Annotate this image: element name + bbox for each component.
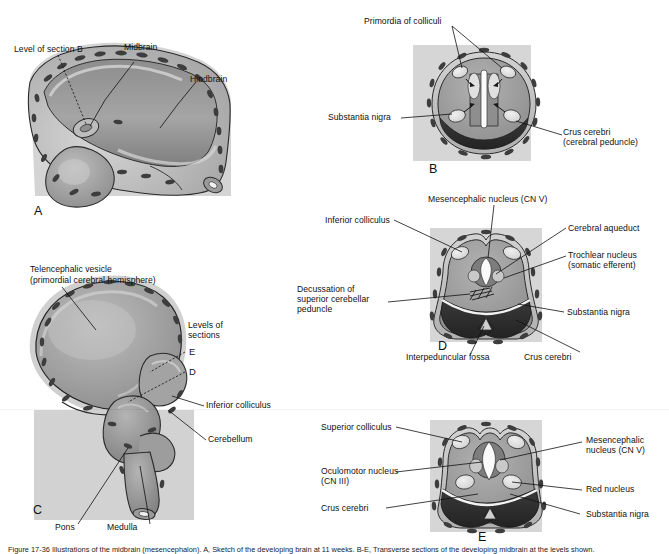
panel-c-illustration (30, 276, 206, 524)
label-cerebellum: Cerebellum (208, 434, 252, 444)
label-level-of-section-b: Level of section B (14, 44, 83, 54)
panel-letter-b: B (429, 163, 437, 176)
label-inferior-colliculus-d: Inferior colliculus (325, 215, 390, 225)
label-substantia-nigra-b: Substantia nigra (328, 112, 391, 122)
panel-b-illustration (401, 26, 562, 161)
label-substantia-nigra-d: Substantia nigra (567, 307, 630, 317)
label-substantia-nigra-e: Substantia nigra (586, 509, 649, 519)
label-hindbrain: Hindbrain (190, 74, 227, 84)
label-oculomotor-cniii: (CN III) (321, 476, 349, 486)
label-trochlear-somatic-efferent: (somatic efferent) (568, 260, 636, 270)
label-crus-cerebri-e: Crus cerebri (321, 503, 368, 513)
label-crus-cerebri-d: Crus cerebri (524, 352, 571, 362)
label-trochlear-nucleus: Trochlear nucleus (568, 250, 637, 260)
label-mesencephalic-e: Mesencephalic (586, 435, 644, 445)
label-medulla: Medulla (107, 522, 137, 532)
label-level-d: D (189, 367, 196, 377)
panel-letter-c: C (33, 504, 42, 517)
label-mesencephalic-nucleus-cnv-e: nucleus (CN V) (586, 445, 645, 455)
panel-letter-e: E (478, 531, 486, 544)
label-sections: sections (188, 330, 220, 340)
label-cerebral-peduncle-b: (cerebral peduncle) (563, 137, 638, 147)
panel-letter-d: D (438, 340, 447, 353)
label-red-nucleus: Red nucleus (586, 484, 634, 494)
label-mesencephalic-nucleus-d: Mesencephalic nucleus (CN V) (428, 194, 547, 204)
panel-d-illustration (388, 205, 580, 355)
label-level-e: E (189, 347, 195, 357)
label-superior-colliculus: Superior colliculus (321, 422, 392, 432)
label-cerebral-aqueduct: Cerebral aqueduct (568, 223, 640, 233)
label-pons: Pons (55, 522, 75, 532)
panel-letter-a: A (34, 205, 42, 218)
label-primordial-cerebral-hemisphere: (primordial cerebral hemisphere) (30, 275, 156, 285)
label-superior-cerebellar: superior cerebellar (297, 294, 369, 304)
scan-artifact (0, 409, 669, 410)
label-decussation-of: Decussation of (297, 284, 355, 294)
panel-a-illustration (28, 43, 231, 207)
panel-e-illustration (386, 420, 582, 534)
label-levels-of: Levels of (188, 320, 223, 330)
figure-container: Level of section B Midbrain Hindbrain A … (0, 0, 669, 554)
label-inferior-colliculus-c: Inferior colliculus (206, 400, 271, 410)
label-oculomotor-nucleus: Oculomotor nucleus (321, 466, 398, 476)
label-midbrain: Midbrain (124, 42, 157, 52)
label-telencephalic-vesicle: Telencephalic vesicle (30, 264, 112, 274)
label-peduncle: peduncle (297, 304, 332, 314)
label-primordia-of-colliculi: Primordia of colliculi (364, 16, 442, 26)
label-crus-cerebri-b: Crus cerebri (563, 127, 610, 137)
label-interpeduncular-fossa: Interpeduncular fossa (406, 352, 490, 362)
figure-caption: Figure 17-36 Illustrations of the midbra… (8, 545, 663, 554)
